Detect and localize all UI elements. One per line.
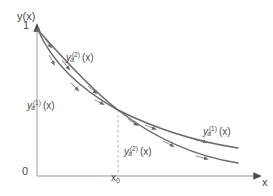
curve-label-argument: (x) [82,52,94,63]
curve-label-ya2-bottom: ya(2)(x) [124,146,152,158]
curve-label-superscript: (2) [72,51,80,58]
y-tick-label-one: 1 [23,20,29,31]
plot-canvas [0,0,273,196]
curve-label-ya1-left: ya(1)(x) [27,100,55,112]
x0-tick-label: x0 [111,173,120,184]
figure-container: y(x) x 0 1 x0 ya(2)(x) ya(1)(x) ya(1)(x)… [0,0,273,196]
curve-label-argument: (x) [43,100,55,111]
curve-label-superscript: (1) [209,125,217,132]
origin-label: 0 [22,166,28,177]
curve-label-ya2-top: ya(2)(x) [66,52,94,64]
curve-label-ya1-right: ya(1)(x) [203,126,231,138]
curve-ya1-arrow-2 [71,83,78,90]
x0-tick-subscript: 0 [116,177,120,184]
curve-label-superscript: (1) [33,99,41,106]
curve-label-argument: (x) [219,126,231,137]
curve-label-superscript: (2) [130,145,138,152]
curve-label-argument: (x) [140,146,152,157]
x-axis-label: x [262,177,268,188]
curve-ya2-arrow-6 [196,156,207,159]
